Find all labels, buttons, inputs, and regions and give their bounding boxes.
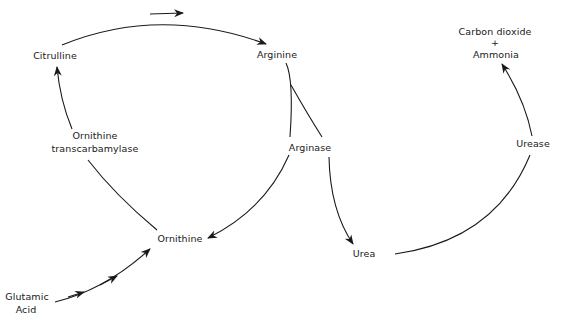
edge-ornithine-transcarbamylase [88,160,157,230]
edge-arginine-arginase-a [286,63,291,137]
node-glutamic-line2: Acid [16,304,37,316]
node-products-plus: + [491,37,499,49]
node-arginine: Arginine [257,49,297,61]
node-arginase: Arginase [289,142,331,154]
edge-citrulline-arginine-mid [150,13,183,14]
node-glutamic-line1: Glutamic [5,291,49,303]
edge-arginase-ornithine [208,155,289,238]
edge-transcarbamylase-citrulline [57,67,72,129]
node-urease: Urease [516,138,550,150]
edge-citrulline-arginine [62,25,266,45]
edge-glutamic-ornithine [55,249,150,302]
edge-glutamic-mid1 [68,292,84,297]
edge-urea-urease [395,155,530,254]
edge-urease-products [502,64,532,136]
node-urea: Urea [353,248,376,260]
node-products-line2: Ammonia [473,49,519,61]
node-citrulline: Citrulline [33,50,77,62]
node-transcarbamylase-line2: transcarbamylase [52,143,139,155]
node-ornithine: Ornithine [157,233,202,245]
edge-glutamic-mid2 [100,276,117,285]
node-transcarbamylase-line1: Ornithine [72,130,117,142]
edge-arginine-arginase-b [291,85,322,137]
edge-arginase-urea [329,157,353,244]
